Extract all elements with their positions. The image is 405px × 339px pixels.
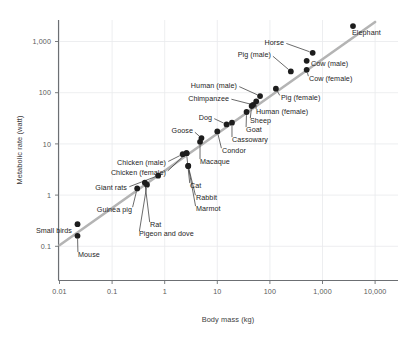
data-point-label: Cassowary xyxy=(232,135,268,144)
x-tick-label: 10,000 xyxy=(364,287,387,296)
data-point xyxy=(253,98,259,104)
data-point-label: Goat xyxy=(246,125,262,134)
x-tick-label: 1 xyxy=(163,287,167,296)
data-point xyxy=(304,67,310,73)
data-point-label: Horse xyxy=(265,38,284,47)
data-point-label: Mouse xyxy=(78,250,100,259)
data-point-label: Chimpanzee xyxy=(188,94,229,103)
data-point-label: Cat xyxy=(190,181,201,190)
x-tick-label: 0.1 xyxy=(107,287,117,296)
data-point-label: Cow (male) xyxy=(311,59,348,68)
data-point xyxy=(257,93,263,99)
data-point-label: Chicken (female) xyxy=(111,168,166,177)
y-axis-title: Metabolic rate (watt) xyxy=(15,115,24,184)
x-tick-label: 10 xyxy=(213,287,221,296)
data-point xyxy=(288,69,294,75)
data-point-label: Guinea pig xyxy=(97,205,132,214)
data-point-label: Macaque xyxy=(200,157,230,166)
data-point-label: Pig (male) xyxy=(238,50,271,59)
data-point xyxy=(134,186,140,192)
data-point-label: Pig (female) xyxy=(281,93,320,102)
x-tick-label: 1,000 xyxy=(313,287,332,296)
x-tick-label: 100 xyxy=(264,287,276,296)
data-point-label: Rabbit xyxy=(196,193,217,202)
data-point xyxy=(229,120,235,126)
data-point xyxy=(184,150,190,156)
data-point xyxy=(197,139,203,145)
data-point-label: Cow (female) xyxy=(309,74,352,83)
data-point xyxy=(75,221,81,227)
scatter-plot-svg: 0.010.11101001,00010,000 1,0001001010.1 … xyxy=(0,0,405,339)
data-point xyxy=(244,109,250,115)
data-point xyxy=(144,182,150,188)
data-point-label: Chicken (male) xyxy=(117,158,166,167)
data-point-label: Small birds xyxy=(36,226,72,235)
data-point-label: Sheep xyxy=(250,116,271,125)
data-point-label: Elephant xyxy=(352,28,381,37)
x-axis-title: Body mass (kg) xyxy=(202,315,255,324)
data-point-label: Human (female) xyxy=(256,107,308,116)
data-point xyxy=(185,163,191,169)
data-point xyxy=(310,50,316,56)
data-point-label: Goose xyxy=(172,126,193,135)
data-point-label: Rat xyxy=(150,220,161,229)
data-point xyxy=(273,86,279,92)
y-tick-label: 100 xyxy=(39,88,51,97)
data-point-label: Pigeon and dove xyxy=(139,229,194,238)
y-tick-label: 1,000 xyxy=(33,37,52,46)
data-point-label: Giant rats xyxy=(95,183,127,192)
data-point-label: Marmot xyxy=(196,204,221,213)
y-tick-label: 10 xyxy=(43,140,51,149)
y-tick-label: 0.1 xyxy=(41,242,51,251)
chart-canvas: 0.010.11101001,00010,000 1,0001001010.1 … xyxy=(0,0,405,339)
data-point-label: Dog xyxy=(199,113,212,122)
data-point-label: Human (male) xyxy=(191,81,237,90)
x-tick-label: 0.01 xyxy=(52,287,66,296)
data-point xyxy=(224,122,230,128)
data-point xyxy=(304,58,310,64)
data-point xyxy=(214,129,220,135)
data-point-label: Condor xyxy=(222,146,246,155)
y-tick-label: 1 xyxy=(47,191,51,200)
data-point xyxy=(75,233,81,239)
